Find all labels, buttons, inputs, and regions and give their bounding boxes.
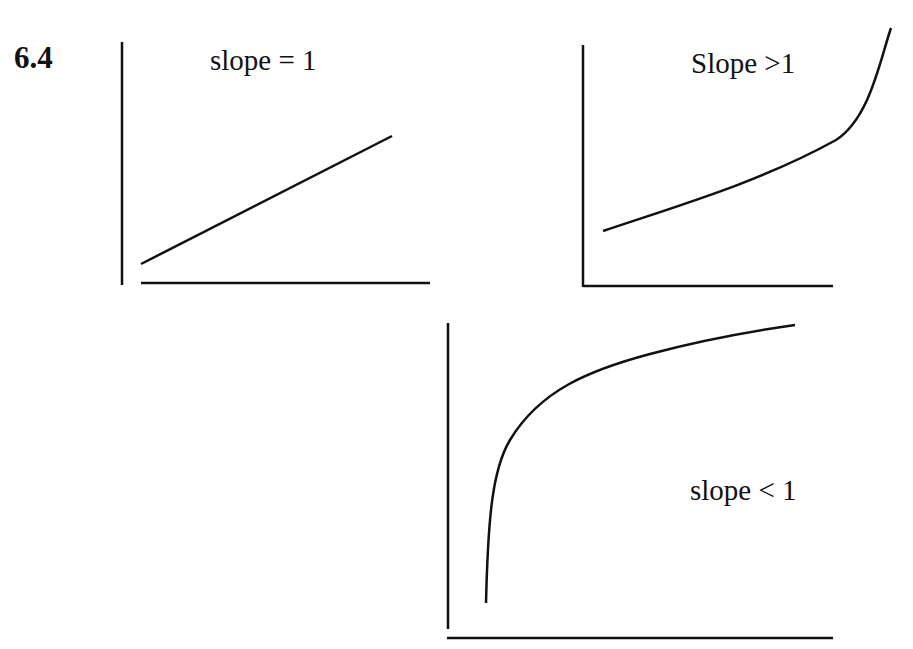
panel-2-label: Slope >1	[691, 47, 795, 80]
concave-curve	[486, 325, 795, 603]
panel-1-label: slope = 1	[210, 44, 317, 77]
panel-slope-equal-one	[122, 42, 430, 285]
linear-curve	[141, 136, 392, 264]
panel-3-label: slope < 1	[690, 474, 797, 507]
figure-canvas	[0, 0, 913, 649]
